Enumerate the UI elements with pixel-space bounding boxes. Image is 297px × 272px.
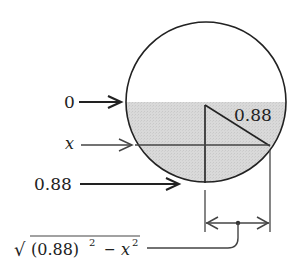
formula-base: (0.88) [31, 240, 79, 259]
radius-label: 0.88 [234, 105, 272, 125]
arrow-right-icon [80, 178, 179, 190]
x-level-label: x [65, 134, 74, 153]
sqrt-symbol: √ [14, 239, 26, 260]
leader-line [147, 223, 238, 248]
formula-exponent-2: 2 [132, 237, 138, 248]
bottom-level-label: 0.88 [34, 174, 72, 194]
formula-minus: − [104, 241, 116, 257]
top-level-label: 0 [64, 92, 75, 112]
arrow-right-icon [81, 139, 132, 151]
tank-diagram: 0.88 0 x 0.88 √ (0.88) 2 − x 2 [0, 0, 297, 272]
formula-exponent-1: 2 [89, 237, 95, 248]
formula-variable: x [121, 240, 130, 259]
half-width-formula: √ (0.88) 2 − x 2 [14, 236, 140, 260]
arrow-right-icon [79, 96, 121, 108]
